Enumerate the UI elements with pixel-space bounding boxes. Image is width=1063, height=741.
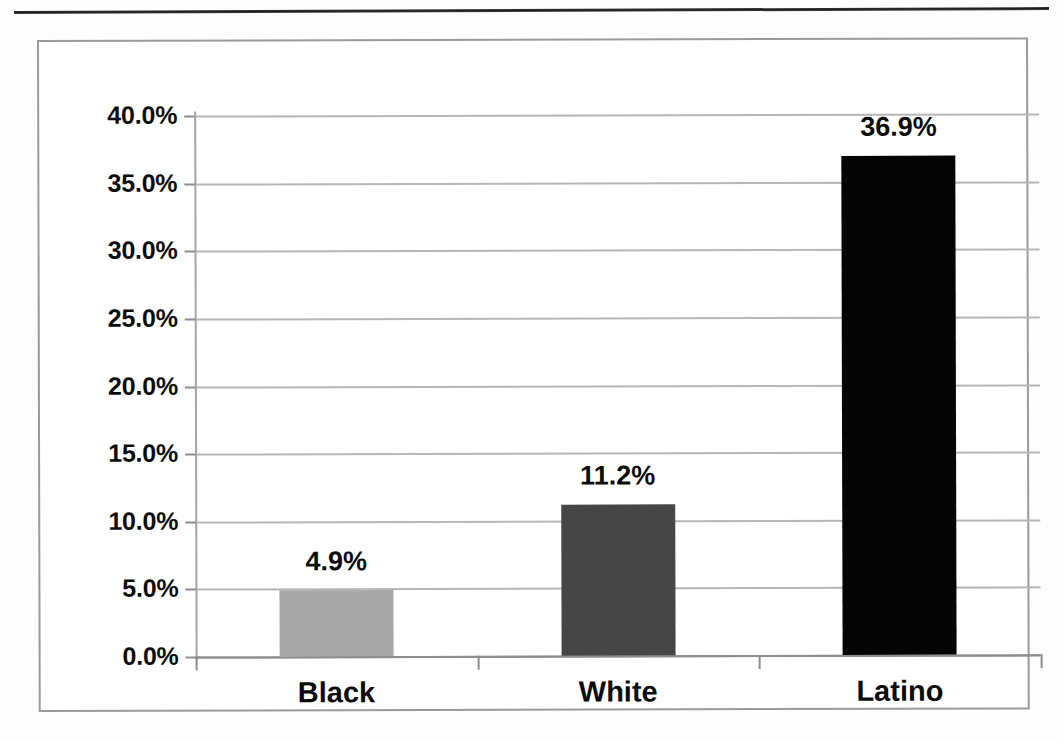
data-label-black: 4.9% [246, 548, 426, 575]
y-axis-tick [184, 116, 195, 118]
y-axis-tick-label: 30.0% [68, 238, 178, 263]
y-axis-tick [185, 386, 196, 388]
bar-latino[interactable] [841, 156, 956, 655]
data-label-latino: 36.9% [808, 113, 988, 140]
data-label-white: 11.2% [528, 462, 708, 489]
page-top-rule [14, 7, 1049, 14]
y-axis-tick [185, 589, 196, 591]
y-axis-tick-label: 5.0% [68, 576, 178, 601]
y-axis-tick-label: 20.0% [68, 373, 178, 398]
y-axis-tick-label: 25.0% [68, 306, 178, 331]
category-label-white: White [508, 677, 728, 707]
x-axis-tick [477, 656, 479, 670]
y-axis-tick-label: 40.0% [67, 103, 177, 128]
bar-white[interactable] [561, 504, 675, 656]
y-axis-labels: 0.0%5.0%10.0%15.0%20.0%25.0%30.0%35.0%40… [59, 42, 179, 710]
y-axis-tick [185, 454, 196, 456]
bar-black[interactable] [279, 590, 393, 657]
category-label-black: Black [227, 678, 447, 708]
x-axis-tick [1041, 654, 1043, 668]
y-axis-tick-label: 15.0% [68, 441, 178, 466]
category-label-latino: Latino [790, 676, 1010, 706]
scanned-page: 0.0%5.0%10.0%15.0%20.0%25.0%30.0%35.0%40… [0, 0, 1063, 741]
chart-frame: 0.0%5.0%10.0%15.0%20.0%25.0%30.0%35.0%40… [37, 37, 1030, 712]
x-axis-tick [196, 657, 198, 671]
x-axis-tick [759, 655, 761, 669]
y-axis-tick-label: 0.0% [69, 644, 179, 669]
y-axis-tick-label: 10.0% [68, 508, 178, 533]
chart-overlay: 4.9%Black11.2%White36.9%Latino [39, 39, 1026, 42]
y-axis-tick [185, 521, 196, 523]
y-axis-tick [185, 251, 196, 253]
y-axis-tick [185, 318, 196, 320]
y-axis-tick [184, 183, 195, 185]
y-axis-tick-label: 35.0% [67, 170, 177, 195]
